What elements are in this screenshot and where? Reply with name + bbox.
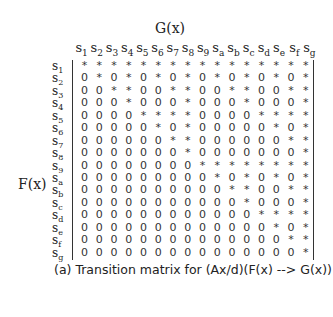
matrix-cell: 0 [107, 97, 122, 109]
matrix-cell: * [298, 247, 313, 259]
matrix-cell: * [151, 72, 166, 84]
matrix-cell: 0 [77, 97, 92, 109]
matrix-cell: 0 [121, 122, 136, 134]
matrix-row: 000000000000000* [73, 247, 313, 259]
column-header: se [271, 40, 286, 58]
matrix-cell: * [269, 209, 284, 221]
matrix-cell: 0 [269, 184, 284, 196]
matrix-cell: 0 [195, 209, 210, 221]
matrix-cell: 0 [180, 184, 195, 196]
matrix-cell: 0 [136, 147, 151, 159]
matrix-cell: * [239, 72, 254, 84]
matrix-cell: 0 [239, 209, 254, 221]
matrix-cell: 0 [107, 147, 122, 159]
column-header: s9 [196, 40, 211, 58]
matrix-cell: 0 [269, 247, 284, 259]
transition-matrix: ****************0*0*0*0*0*0*0*0*00**00**… [72, 60, 314, 260]
matrix-cell: * [254, 209, 269, 221]
matrix-cell: 0 [195, 122, 210, 134]
matrix-cell: 0 [210, 184, 225, 196]
row-header: s6 [52, 122, 63, 134]
matrix-cell: 0 [92, 122, 107, 134]
matrix-cell: 0 [92, 97, 107, 109]
matrix-cell: 0 [77, 122, 92, 134]
matrix-cell: 0 [284, 147, 299, 159]
matrix-cell: 0 [269, 147, 284, 159]
matrix-cell: * [239, 97, 254, 109]
matrix-cell: 0 [254, 147, 269, 159]
matrix-row: 0000000000**00** [73, 184, 313, 196]
matrix-cell: 0 [107, 209, 122, 221]
column-header: sd [256, 40, 271, 58]
row-header: s2 [52, 72, 63, 84]
column-header: s7 [165, 40, 180, 58]
matrix-cell: * [121, 72, 136, 84]
matrix-cell: 0 [151, 209, 166, 221]
matrix-cell: 0 [107, 247, 122, 259]
row-header: sb [52, 184, 63, 196]
matrix-cell: * [269, 122, 284, 134]
matrix-cell: 0 [107, 72, 122, 84]
matrix-cell: * [180, 147, 195, 159]
matrix-cell: * [298, 184, 313, 196]
matrix-cell: 0 [284, 72, 299, 84]
matrix-cell: 0 [151, 97, 166, 109]
matrix-cell: 0 [136, 72, 151, 84]
matrix-cell: 0 [151, 184, 166, 196]
matrix-cell: 0 [225, 247, 240, 259]
column-header: s5 [135, 40, 150, 58]
matrix-row: 00000000000000** [73, 234, 313, 246]
matrix-cell: 0 [151, 147, 166, 159]
matrix-cell: * [210, 72, 225, 84]
matrix-cell: 0 [121, 209, 136, 221]
matrix-cell: 0 [92, 234, 107, 246]
matrix-cell: 0 [77, 247, 92, 259]
matrix-cell: 0 [269, 97, 284, 109]
matrix-row: 0*0*0*0*0*0*0*0* [73, 72, 313, 84]
column-header: s6 [150, 40, 165, 58]
matrix-cell: 0 [195, 97, 210, 109]
column-axis-label: G(x) [155, 20, 185, 36]
matrix-cell: 0 [136, 184, 151, 196]
matrix-cell: * [180, 72, 195, 84]
matrix-cell: 0 [269, 234, 284, 246]
row-headers: s1s2s3s4s5s6s7s8s9sasbscsdsesfsg [52, 60, 63, 259]
matrix-cell: * [298, 234, 313, 246]
matrix-cell: 0 [254, 72, 269, 84]
matrix-cell: 0 [180, 234, 195, 246]
matrix-cell: * [298, 122, 313, 134]
matrix-cell: 0 [195, 147, 210, 159]
matrix-cell: * [225, 184, 240, 196]
matrix-cell: 0 [166, 184, 181, 196]
matrix-cell: 0 [166, 247, 181, 259]
matrix-cell: 0 [254, 247, 269, 259]
matrix-cell: 0 [77, 184, 92, 196]
matrix-cell: 0 [121, 247, 136, 259]
matrix-cell: 0 [210, 209, 225, 221]
matrix-cell: 0 [225, 97, 240, 109]
matrix-cell: * [92, 72, 107, 84]
matrix-cell: * [284, 209, 299, 221]
matrix-cell: 0 [195, 72, 210, 84]
column-headers: s1s2s3s4s5s6s7s8s9sasbscsdsesfsg [74, 37, 317, 59]
matrix-cell: 0 [210, 247, 225, 259]
column-header: s2 [89, 40, 104, 58]
matrix-cell: * [298, 97, 313, 109]
matrix-cell: 0 [239, 147, 254, 159]
matrix-cell: * [121, 97, 136, 109]
matrix-row: 000*000*000*000* [73, 97, 313, 109]
matrix-cell: * [298, 72, 313, 84]
matrix-cell: * [269, 72, 284, 84]
column-header: sa [211, 40, 226, 58]
column-header: s1 [74, 40, 89, 58]
matrix-cell: 0 [121, 147, 136, 159]
matrix-cell: 0 [136, 97, 151, 109]
matrix-cell: 0 [107, 184, 122, 196]
figure-caption: (a) Transition matrix for (Ax/d)(F(x) --… [54, 262, 332, 277]
matrix-cell: 0 [92, 247, 107, 259]
matrix-cell: 0 [92, 184, 107, 196]
row-header: s4 [52, 97, 63, 109]
matrix-cell: 0 [254, 97, 269, 109]
matrix-cell: 0 [180, 247, 195, 259]
column-header: sg [302, 40, 317, 58]
